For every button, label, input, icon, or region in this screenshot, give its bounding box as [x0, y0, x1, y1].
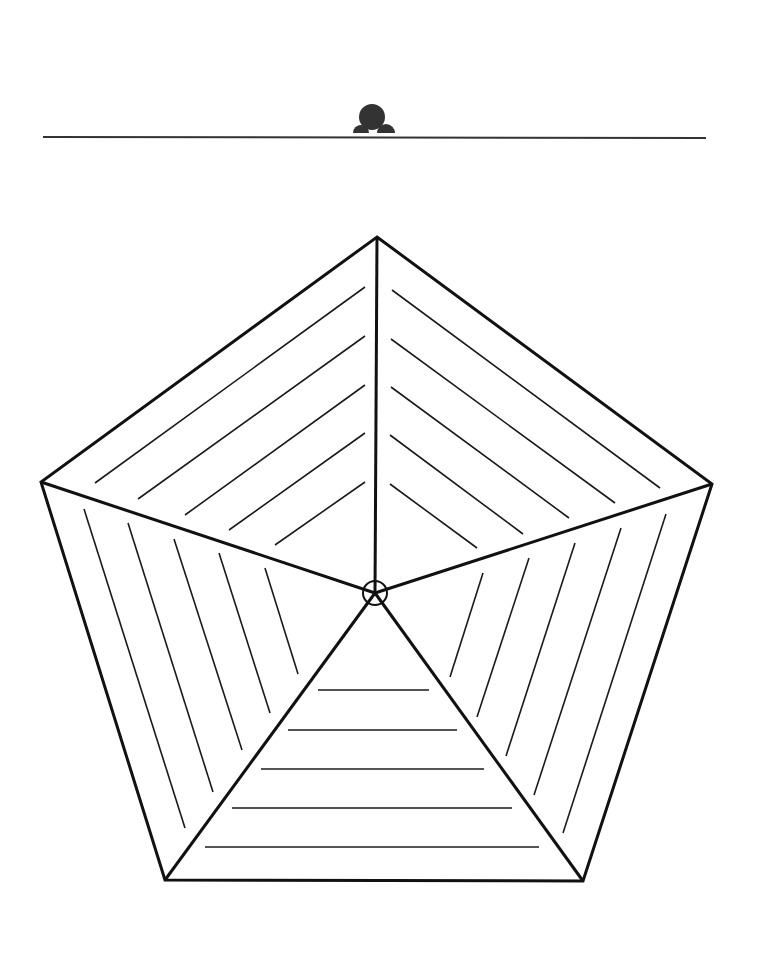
hatch-line	[390, 435, 523, 534]
hatch-line	[450, 573, 483, 677]
sector-bottom	[205, 690, 539, 847]
spoke-bottom-left	[165, 593, 375, 880]
mound-emblem-icon	[353, 104, 395, 133]
hatch-line	[391, 339, 615, 503]
pentagon-diagram	[41, 237, 712, 881]
diagram-canvas	[0, 0, 768, 972]
sector-upper-right	[390, 290, 660, 548]
hatch-line	[219, 553, 270, 713]
sector-upper-left	[95, 287, 365, 545]
spoke-top	[375, 237, 377, 593]
hatch-line	[390, 484, 477, 548]
hatch-line	[391, 387, 569, 518]
hatch-line	[174, 539, 242, 750]
header-rule	[43, 137, 706, 138]
hatch-line	[185, 385, 365, 515]
hatch-line	[95, 287, 365, 483]
hatch-line	[229, 433, 365, 530]
hatch-line	[477, 558, 529, 717]
spoke-bottom-right	[375, 593, 583, 881]
hatch-line	[392, 290, 660, 488]
hatch-line	[506, 543, 575, 756]
hatch-line	[534, 528, 621, 795]
spoke-right	[375, 484, 712, 593]
header	[43, 104, 706, 138]
hatch-line	[275, 482, 365, 545]
sector-lower-right	[450, 514, 666, 833]
hatch-line	[138, 336, 365, 499]
hatch-line	[128, 523, 213, 792]
hatch-line	[265, 568, 298, 674]
